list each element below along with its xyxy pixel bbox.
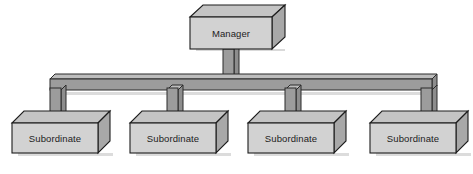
bus-bar-top [50,74,437,79]
subordinate-label-4: Subordinate [387,133,439,144]
sub1-box-top [12,111,110,123]
org-chart-diagram: Manager Subordinate Subordinate Subordin… [0,0,473,174]
subordinate-label-3: Subordinate [265,133,317,144]
subordinate-node-1[interactable]: Subordinate [12,111,110,153]
sub3-box-top [248,111,346,123]
subordinate-node-3[interactable]: Subordinate [248,111,346,153]
subordinate-label-2: Subordinate [147,133,199,144]
subordinate-node-4[interactable]: Subordinate [370,111,468,153]
bus-bar-face [50,79,432,90]
subordinate-node-2[interactable]: Subordinate [130,111,228,153]
subordinate-label-1: Subordinate [29,133,81,144]
sub2-box-top [130,111,228,123]
connector-structure [50,45,437,118]
manager-box-top [190,5,285,17]
manager-node[interactable]: Manager [190,5,285,49]
manager-label: Manager [212,28,250,39]
bus-shadow [54,92,436,95]
sub4-box-top [370,111,468,123]
org-chart-canvas: Manager Subordinate Subordinate Subordin… [0,0,473,174]
bus-bar-connector [50,74,437,91]
